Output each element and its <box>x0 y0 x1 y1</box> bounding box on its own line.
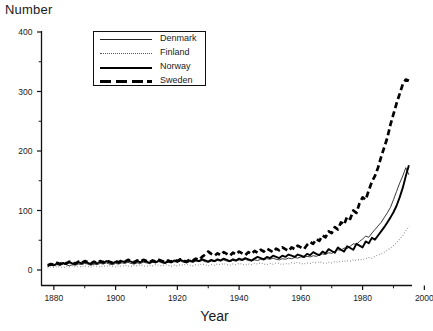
y-tick-label: 300 <box>18 87 32 97</box>
y-tick-label: 100 <box>18 206 32 216</box>
legend-label-sweden: Sweden <box>160 75 193 85</box>
chart-container: Number 0100200300400 1880190019201940196… <box>0 0 433 331</box>
legend-item-finland: Finland <box>94 47 205 60</box>
legend-label-norway: Norway <box>160 61 191 71</box>
series-line-norway <box>48 165 409 266</box>
legend-item-denmark: Denmark <box>94 33 205 46</box>
x-tick-label: 1880 <box>44 293 63 303</box>
x-tick-label: 1960 <box>291 293 310 303</box>
x-tick-label: 2000 <box>415 293 433 303</box>
data-series-group <box>48 80 409 268</box>
x-tick-label: 1980 <box>353 293 372 303</box>
legend-swatch-finland <box>100 53 152 54</box>
x-axis-title: Year <box>0 308 433 324</box>
y-tick-label: 400 <box>18 27 32 37</box>
x-axis-ticks: 1880190019201940196019802000 <box>44 286 433 304</box>
legend-swatch-norway <box>100 67 152 69</box>
y-tick-label: 200 <box>18 146 32 156</box>
x-axis-title-text: Year <box>200 308 228 324</box>
x-tick-label: 1920 <box>168 293 187 303</box>
x-tick-label: 1940 <box>230 293 249 303</box>
plot-area: 0100200300400 18801900192019401960198020… <box>0 0 433 331</box>
legend-item-norway: Norway <box>94 61 205 74</box>
legend: Denmark Finland Norway Sweden <box>93 31 206 86</box>
series-line-sweden <box>48 80 409 266</box>
legend-swatch-denmark <box>100 39 152 40</box>
legend-swatch-sweden <box>100 80 152 83</box>
legend-label-denmark: Denmark <box>160 33 197 43</box>
y-tick-label: 0 <box>28 265 33 275</box>
legend-label-finland: Finland <box>160 47 190 57</box>
y-axis-ticks: 0100200300400 <box>18 27 41 275</box>
legend-item-sweden: Sweden <box>94 75 205 88</box>
series-line-denmark <box>48 168 409 267</box>
x-tick-label: 1900 <box>106 293 125 303</box>
